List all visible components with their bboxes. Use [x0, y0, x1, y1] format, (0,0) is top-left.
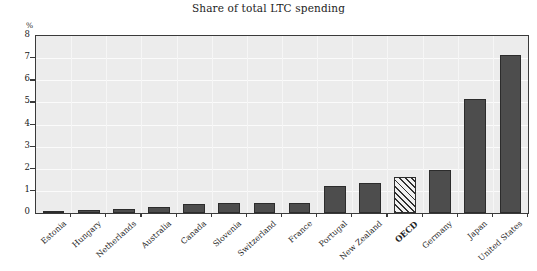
bar-oecd[interactable] [394, 177, 416, 214]
x-axis-label-hungary: Hungary [70, 219, 102, 249]
y-axis-tick-label: 0 [6, 207, 30, 216]
x-axis-tick [351, 213, 352, 217]
y-axis-tick-label: 5 [6, 96, 30, 105]
y-axis-tick-label: 7 [6, 52, 30, 61]
bar-hungary[interactable] [78, 210, 100, 213]
bar-germany[interactable] [429, 170, 451, 213]
y-axis-tick-label: 2 [6, 163, 30, 172]
x-axis-label-slovenia: Slovenia [212, 219, 244, 249]
bar-switzerland[interactable] [254, 203, 276, 213]
bar-canada[interactable] [183, 204, 205, 214]
y-axis-tick [30, 190, 36, 191]
bar-new-zealand[interactable] [359, 183, 381, 213]
chart-figure: Share of total LTC spending % 012345678 … [0, 0, 537, 271]
y-axis-tick-labels: 012345678 [0, 0, 30, 271]
x-axis-tick [211, 213, 212, 217]
x-axis-label-japan: Japan [466, 219, 489, 241]
x-axis-tick [246, 213, 247, 217]
x-axis-tick [492, 213, 493, 217]
y-axis-tick [30, 79, 36, 80]
y-axis-tick-label: 8 [6, 30, 30, 39]
x-axis-label-oecd: OECD [393, 219, 420, 244]
bar-australia[interactable] [148, 207, 170, 213]
x-axis-label-canada: Canada [179, 219, 208, 246]
x-axis-label-australia: Australia [140, 219, 173, 250]
x-axis-tick [316, 213, 317, 217]
bar-estonia[interactable] [43, 211, 65, 213]
plot-area [35, 35, 529, 214]
y-axis-tick [30, 168, 36, 169]
x-axis-tick [457, 213, 458, 217]
x-axis-tick [281, 213, 282, 217]
x-axis-tick [527, 213, 528, 217]
x-axis-tick [105, 213, 106, 217]
bar-france[interactable] [289, 203, 311, 213]
x-axis-tick [422, 213, 423, 217]
y-axis-tick [30, 57, 36, 58]
y-axis-tick-label: 1 [6, 185, 30, 194]
x-axis-tick [140, 213, 141, 217]
y-axis-tick [30, 124, 36, 125]
chart-title: Share of total LTC spending [0, 2, 537, 14]
bar-japan[interactable] [464, 99, 486, 213]
x-axis-label-germany: Germany [421, 219, 455, 250]
x-axis-tick [70, 213, 71, 217]
x-axis-tick [176, 213, 177, 217]
bar-netherlands[interactable] [113, 209, 135, 213]
x-axis-label-estonia: Estonia [39, 219, 68, 246]
y-axis-tick-label: 6 [6, 74, 30, 83]
bar-united-states[interactable] [500, 55, 522, 213]
y-axis-tick-label: 4 [6, 119, 30, 128]
x-axis-label-portugal: Portugal [317, 219, 349, 249]
y-axis-tick-label: 3 [6, 141, 30, 150]
bar-portugal[interactable] [324, 186, 346, 213]
x-axis-tick [386, 213, 387, 217]
y-axis-tick [30, 101, 36, 102]
x-axis-label-france: France [286, 219, 313, 245]
bar-slovenia[interactable] [218, 203, 240, 213]
y-axis-tick [30, 146, 36, 147]
bar-series [36, 36, 528, 213]
